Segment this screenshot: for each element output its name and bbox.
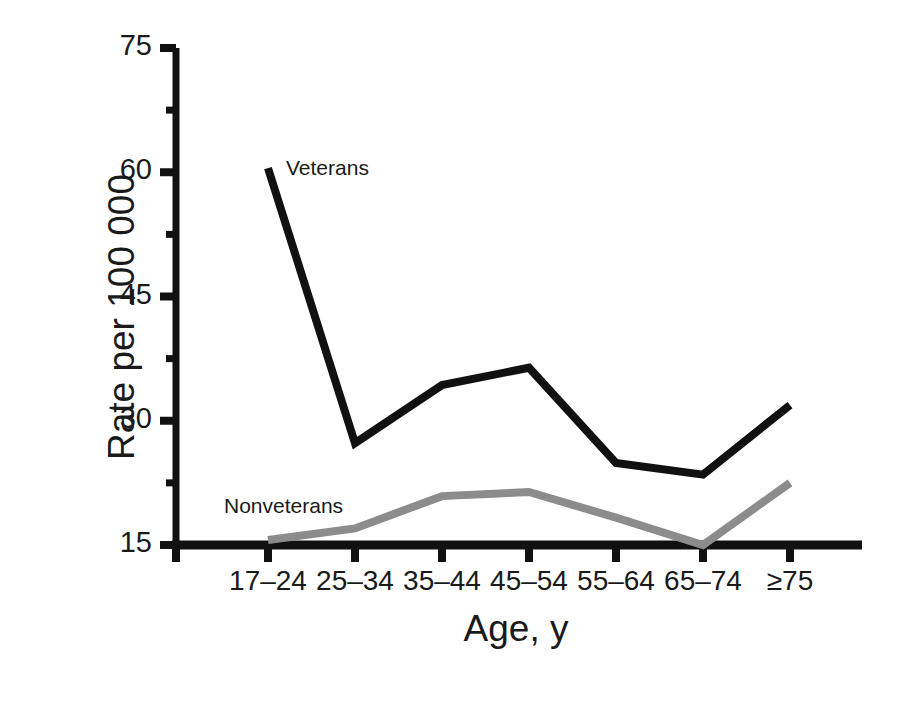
series-label-nonveterans: Nonveterans xyxy=(224,494,343,518)
y-tick-label: 60 xyxy=(82,153,152,186)
chart-figure: Rate per 100 000 Age, y 7560453015 17–24… xyxy=(0,0,922,704)
y-axis-title: Rate per 100 000 xyxy=(101,67,143,567)
x-tick-label: 17–24 xyxy=(218,565,318,597)
x-tick-label: 25–34 xyxy=(305,565,405,597)
x-axis-title: Age, y xyxy=(172,608,860,650)
series-label-veterans: Veterans xyxy=(286,156,369,180)
y-tick-label: 15 xyxy=(82,526,152,559)
chart-axes xyxy=(160,48,862,562)
y-tick-label: 75 xyxy=(82,29,152,62)
y-tick-label: 45 xyxy=(82,278,152,311)
x-tick-label: 65–74 xyxy=(653,565,753,597)
y-tick-label: 30 xyxy=(82,402,152,435)
x-tick-label: 45–54 xyxy=(479,565,579,597)
x-tick-label: 35–44 xyxy=(392,565,492,597)
x-tick-label: 55–64 xyxy=(566,565,666,597)
chart-series xyxy=(268,168,790,545)
x-tick-label: ≥75 xyxy=(740,565,840,597)
